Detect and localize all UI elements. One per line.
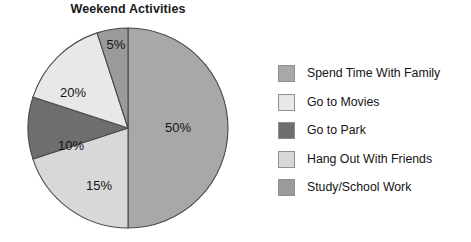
pie-slice-value-label: 15% — [86, 178, 112, 193]
pie-chart-svg: 50%15%10%20%5% — [0, 0, 262, 242]
pie-slice-value-label: 5% — [107, 37, 126, 52]
pie-slice-group — [28, 28, 228, 228]
pie-chart: 50%15%10%20%5% — [0, 0, 262, 242]
pie-chart-screenshot: Weekend Activities 50%15%10%20%5% Spend … — [0, 0, 471, 242]
legend-color-swatch — [278, 65, 295, 82]
legend-item-label: Spend Time With Family — [307, 67, 440, 79]
legend-item-label: Study/School Work — [307, 181, 411, 193]
legend-item[interactable]: Hang Out With Friends — [278, 150, 468, 169]
pie-slice-value-label: 10% — [58, 138, 84, 153]
legend-item[interactable]: Spend Time With Family — [278, 64, 468, 83]
legend-color-swatch — [278, 179, 295, 196]
legend-item[interactable]: Study/School Work — [278, 178, 468, 197]
chart-legend: Spend Time With FamilyGo to MoviesGo to … — [278, 64, 468, 207]
legend-color-swatch — [278, 122, 295, 139]
legend-item-label: Go to Movies — [307, 96, 379, 108]
pie-slice-value-label: 50% — [165, 120, 191, 135]
legend-color-swatch — [278, 94, 295, 111]
legend-item[interactable]: Go to Park — [278, 121, 468, 140]
legend-item-label: Hang Out With Friends — [307, 153, 432, 165]
legend-item[interactable]: Go to Movies — [278, 93, 468, 112]
legend-color-swatch — [278, 151, 295, 168]
legend-item-label: Go to Park — [307, 124, 366, 136]
pie-slice-value-label: 20% — [60, 85, 86, 100]
